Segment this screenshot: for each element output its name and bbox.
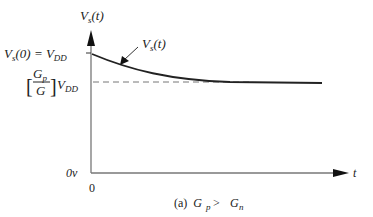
caption-overlay: p > G n [0, 0, 373, 217]
caption-lhs-sub: p [205, 202, 211, 212]
caption-rhs-sub: n [239, 202, 244, 212]
caption-op: > [213, 196, 220, 210]
caption-rhs: G [230, 196, 239, 210]
